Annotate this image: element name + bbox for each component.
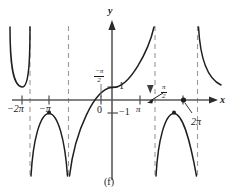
branch-left-outer: [10, 27, 30, 87]
callout-2pi: [185, 103, 192, 113]
annotation-half-pi-denominator: 2: [161, 93, 167, 100]
x-axis-label: x: [220, 95, 225, 105]
annotation-neg-half-pi: −π 2: [94, 67, 104, 84]
y-tick-label-neg-one: −1: [119, 107, 130, 117]
vertex-dot-pi: [172, 111, 176, 115]
annotation-half-pi: π 2: [161, 83, 167, 100]
point-dot-2pi: [181, 97, 186, 102]
x-tick-label-neg-2pi: −2π: [7, 104, 24, 114]
x-tick-label-zero: 0: [97, 105, 102, 115]
curve-branches: [10, 27, 221, 176]
y-tick-label-one: 1: [119, 81, 124, 91]
annotation-neg-half-pi-denominator: 2: [94, 77, 104, 84]
secant-function-graph: [0, 0, 231, 193]
figure-caption: (f): [104, 176, 114, 187]
branch-right-outer: [199, 27, 222, 85]
x-tick-label-neg-pi: −π: [39, 104, 51, 114]
x-tick-label-pi: π: [136, 105, 141, 114]
x-tick-label-2pi: 2π: [191, 117, 201, 127]
asymptote-lines: [30, 26, 198, 176]
y-axis-label: y: [108, 6, 112, 16]
branch-left-mid: [31, 113, 68, 176]
